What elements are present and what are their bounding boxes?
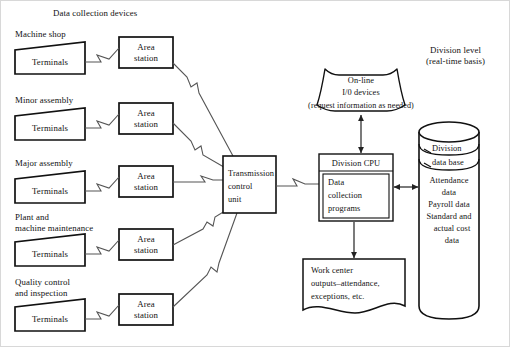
group-label-quality-control-line2: and inspection: [15, 288, 67, 299]
database-item-3: Standard and: [416, 211, 482, 222]
area-station-label-5-line1: Area: [119, 299, 173, 310]
group-label-major-assembly: Major assembly: [15, 158, 73, 169]
tcu-label-line3: unit: [228, 194, 241, 205]
database-item-1: data: [416, 187, 482, 198]
online-io-line3: (request information as needed): [296, 100, 426, 111]
work-center-output-line1: Work center: [311, 265, 353, 276]
group-label-quality-control-line1: Quality control: [15, 277, 70, 288]
data-collection-programs-line1: Data: [328, 177, 344, 188]
terminal-label-5: Terminals: [15, 314, 85, 325]
terminal-label-2: Terminals: [15, 123, 85, 134]
group-label-machine-shop: Machine shop: [15, 29, 66, 40]
area-station-label-1-line2: station: [119, 53, 173, 64]
division-cpu-header-label: Division CPU: [319, 158, 393, 169]
online-io-line2: I/0 devices: [317, 87, 405, 98]
group-label-minor-assembly: Minor assembly: [15, 95, 73, 106]
tcu-label-line1: Transmission: [228, 168, 274, 179]
area-station-label-2-line1: Area: [119, 108, 173, 119]
database-item-4: actual cost: [419, 223, 485, 234]
tcu-cpu-link: [276, 179, 319, 186]
data-collection-programs-line3: programs: [328, 203, 360, 214]
area-station-label-4-line1: Area: [119, 234, 173, 245]
area-station-label-4-line2: station: [119, 245, 173, 256]
database-item-2: Payroll data: [416, 199, 482, 210]
work-center-output-line2: outputs–attendance,: [311, 278, 380, 289]
database-title-line1: Division: [432, 143, 462, 154]
terminal-label-4: Terminals: [15, 249, 85, 260]
online-io-line1: On-line: [317, 75, 405, 86]
diagram-frame: Data collection devices Division level (…: [0, 0, 510, 347]
title-data-collection-devices: Data collection devices: [53, 8, 137, 19]
title-division-level-line2: (real-time basis): [426, 56, 485, 67]
database-item-0: Attendance: [416, 175, 482, 186]
title-division-level-line1: Division level: [430, 45, 481, 56]
terminal-station-links: [85, 48, 119, 319]
area-station-label-1-line1: Area: [119, 42, 173, 53]
terminal-label-1: Terminals: [15, 57, 85, 68]
area-station-label-3-line1: Area: [119, 171, 173, 182]
area-station-label-3-line2: station: [119, 182, 173, 193]
group-label-plant-maintenance-line1: Plant and: [15, 212, 49, 223]
database-title-line2: data base: [432, 157, 464, 168]
work-center-output-line3: exceptions, etc.: [311, 291, 364, 302]
area-station-label-2-line2: station: [119, 119, 173, 130]
tcu-label-line2: control: [228, 181, 252, 192]
terminal-label-3: Terminals: [15, 186, 85, 197]
database-item-5: data: [419, 235, 485, 246]
data-collection-programs-line2: collection: [328, 190, 362, 201]
area-station-label-5-line2: station: [119, 310, 173, 321]
group-label-plant-maintenance-line2: machine maintenance: [15, 223, 93, 234]
